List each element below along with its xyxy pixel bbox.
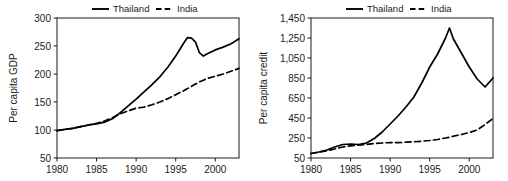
legend-label-thailand: Thailand: [367, 3, 403, 14]
y-tick-label: 650: [288, 93, 305, 104]
series-line-india: [311, 119, 493, 154]
credit-chart-svg: Thailand India Per capita credit 5025045…: [254, 0, 508, 181]
x-tick-label: 1985: [339, 164, 362, 175]
y-tick-label: 100: [34, 125, 51, 136]
y-tick-label: 300: [34, 13, 51, 24]
y-tick-label: 450: [288, 113, 305, 124]
x-tick-label: 1995: [165, 164, 188, 175]
gdp-legend: Thailand India: [92, 3, 198, 14]
plot-frame-credit: [311, 18, 493, 158]
y-tick-label: 1,250: [280, 33, 305, 44]
x-axis-ticks-credit: 19801985199019952000: [300, 158, 481, 175]
x-tick-label: 1980: [46, 164, 69, 175]
series-line-thailand: [57, 38, 239, 131]
legend-label-india: India: [177, 3, 198, 14]
x-tick-label: 1995: [419, 164, 442, 175]
x-tick-label: 1985: [85, 164, 108, 175]
y-tick-label: 250: [288, 133, 305, 144]
y-tick-label: 1,450: [280, 13, 305, 24]
y-tick-label: 150: [34, 97, 51, 108]
series-line-india: [57, 68, 239, 130]
legend-label-thailand: Thailand: [113, 3, 149, 14]
y-axis-title-per-capita-gdp: Per capita GDP: [8, 53, 19, 123]
x-axis-ticks-gdp: 19801985199019952000: [46, 158, 227, 175]
data-series-group-gdp: [57, 38, 239, 131]
y-tick-label: 250: [34, 41, 51, 52]
x-tick-label: 2000: [204, 164, 227, 175]
x-tick-label: 1990: [379, 164, 402, 175]
x-tick-label: 2000: [458, 164, 481, 175]
chart-panel-per-capita-credit: Thailand India Per capita credit 5025045…: [254, 0, 508, 181]
y-tick-label: 1,050: [280, 53, 305, 64]
legend-label-india: India: [431, 3, 452, 14]
x-tick-label: 1980: [300, 164, 323, 175]
y-axis-ticks-credit: 502504506508501,0501,2501,450: [280, 13, 311, 164]
y-tick-label: 200: [34, 69, 51, 80]
gdp-chart-svg: Thailand India Per capita GDP 5010015020…: [0, 0, 254, 181]
x-tick-label: 1990: [125, 164, 148, 175]
y-axis-ticks-gdp: 50100150200250300: [34, 13, 57, 164]
two-panel-line-chart-figure: Thailand India Per capita GDP 5010015020…: [0, 0, 508, 181]
data-series-group-credit: [311, 28, 493, 154]
y-tick-label: 50: [294, 153, 306, 164]
series-line-thailand: [311, 28, 493, 154]
credit-legend: Thailand India: [346, 3, 452, 14]
y-tick-label: 850: [288, 73, 305, 84]
chart-panel-per-capita-gdp: Thailand India Per capita GDP 5010015020…: [0, 0, 254, 181]
y-axis-title-per-capita-credit: Per capita credit: [258, 52, 269, 124]
y-tick-label: 50: [40, 153, 52, 164]
